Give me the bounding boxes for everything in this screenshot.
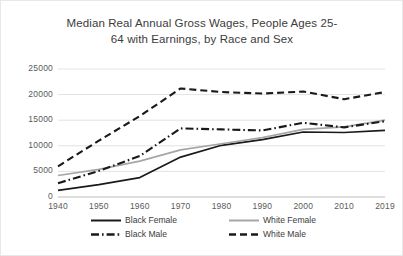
y-axis-tick-label: 5000 — [11, 165, 53, 175]
legend-label: White Male — [263, 229, 306, 239]
legend-item[interactable]: Black Female — [91, 215, 177, 225]
x-axis-tick-label: 2000 — [286, 201, 320, 211]
legend-swatch — [91, 216, 121, 225]
x-axis-tick-label: 1940 — [41, 201, 75, 211]
legend-item[interactable]: Black Male — [91, 229, 167, 239]
legend-swatch — [229, 230, 259, 239]
y-axis-tick-label: 15000 — [11, 114, 53, 124]
legend-label: Black Male — [125, 229, 167, 239]
chart-legend: Black FemaleBlack MaleWhite FemaleWhite … — [91, 215, 336, 245]
x-axis-tick-label: 1960 — [123, 201, 157, 211]
legend-label: White Female — [263, 215, 316, 225]
chart-container: Median Real Annual Gross Wages, People A… — [0, 0, 403, 256]
x-axis-tick-label: 1990 — [245, 201, 279, 211]
x-axis-tick-label: 2019 — [368, 201, 402, 211]
x-axis-tick-label: 1970 — [164, 201, 198, 211]
series-line-black-male — [58, 121, 385, 183]
series-line-black-female — [58, 130, 385, 190]
y-axis-tick-label: 25000 — [11, 63, 53, 73]
x-axis-tick-label: 2010 — [327, 201, 361, 211]
y-axis-tick-label: 10000 — [11, 140, 53, 150]
x-axis-tick-label: 1980 — [205, 201, 239, 211]
y-axis-tick-label: 20000 — [11, 89, 53, 99]
legend-swatch — [91, 230, 121, 239]
x-axis-tick-label: 1950 — [82, 201, 116, 211]
legend-item[interactable]: White Male — [229, 229, 306, 239]
legend-label: Black Female — [125, 215, 177, 225]
legend-item[interactable]: White Female — [229, 215, 316, 225]
y-axis-tick-label: 0 — [11, 191, 53, 201]
legend-swatch — [229, 216, 259, 225]
